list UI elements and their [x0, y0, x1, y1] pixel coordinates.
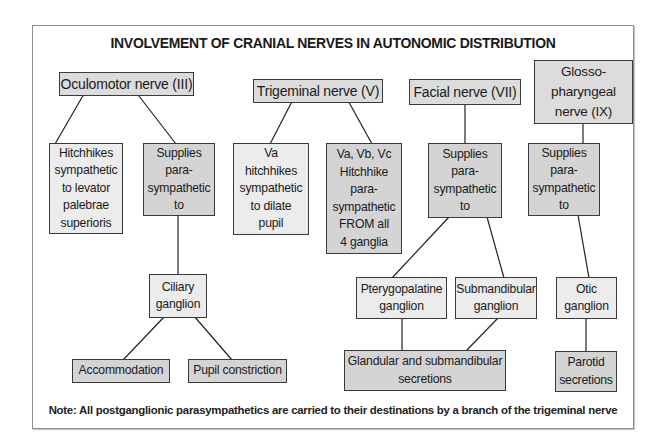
glossopharyngeal-parasympathetic-box: Supplies para- sympathetic to — [528, 143, 600, 216]
ciliary-ganglion-label: Ciliary ganglion — [156, 279, 200, 314]
trigeminal-va-label: Va hitchhikes sympathetic to dilate pupi… — [240, 145, 303, 233]
oculomotor-nerve-label: Oculomotor nerve (III) — [61, 75, 193, 93]
otic-ganglion-box: Otic ganglion — [556, 277, 617, 319]
facial-parasympathetic-label: Supplies para- sympathetic to — [434, 146, 497, 216]
glossopharyngeal-parasympathetic-label: Supplies para- sympathetic to — [533, 145, 596, 215]
pterygopalatine-ganglion-box: Pterygopalatine ganglion — [356, 277, 447, 319]
otic-ganglion-label: Otic ganglion — [564, 281, 608, 316]
oculomotor-nerve-box: Oculomotor nerve (III) — [59, 72, 194, 96]
facial-nerve-box: Facial nerve (VII) — [409, 79, 521, 105]
submandibular-ganglion-label: Submandibular ganglion — [456, 281, 535, 316]
accommodation-label: Accommodation — [79, 362, 164, 380]
trigeminal-nerve-label: Trigeminal nerve (V) — [257, 82, 379, 100]
glandular-secretions-box: Glandular and submandibular secretions — [344, 350, 506, 391]
trigeminal-vabc-box: Va, Vb, Vc Hitchhike para- sympathetic F… — [326, 143, 402, 254]
footnote: Note: All postganglionic parasympathetic… — [32, 404, 634, 416]
glandular-secretions-label: Glandular and submandibular secretions — [348, 353, 503, 388]
pterygopalatine-ganglion-label: Pterygopalatine ganglion — [361, 281, 443, 316]
pupil-constriction-label: Pupil constriction — [193, 362, 282, 380]
glossopharyngeal-nerve-label: Glosso- pharyngeal nerve (IX) — [551, 62, 616, 122]
accommodation-box: Accommodation — [72, 359, 170, 383]
trigeminal-nerve-box: Trigeminal nerve (V) — [253, 79, 383, 103]
parotid-secretions-label: Parotid secretions — [559, 354, 613, 389]
facial-nerve-label: Facial nerve (VII) — [414, 83, 517, 101]
submandibular-ganglion-box: Submandibular ganglion — [455, 277, 537, 319]
glossopharyngeal-nerve-box: Glosso- pharyngeal nerve (IX) — [534, 60, 633, 124]
oculomotor-sympathetic-box: Hitchhikes sympathetic to levator palebr… — [49, 143, 123, 234]
facial-parasympathetic-box: Supplies para- sympathetic to — [428, 143, 502, 218]
oculomotor-sympathetic-label: Hitchhikes sympathetic to levator palebr… — [55, 145, 118, 233]
pupil-constriction-box: Pupil constriction — [188, 359, 287, 383]
parotid-secretions-box: Parotid secretions — [555, 351, 617, 392]
oculomotor-parasympathetic-box: Supplies para- sympathetic to — [143, 143, 215, 216]
ciliary-ganglion-box: Ciliary ganglion — [149, 274, 207, 318]
trigeminal-vabc-label: Va, Vb, Vc Hitchhike para- sympathetic F… — [333, 146, 396, 251]
oculomotor-parasympathetic-label: Supplies para- sympathetic to — [148, 145, 211, 215]
trigeminal-va-box: Va hitchhikes sympathetic to dilate pupi… — [233, 143, 309, 235]
